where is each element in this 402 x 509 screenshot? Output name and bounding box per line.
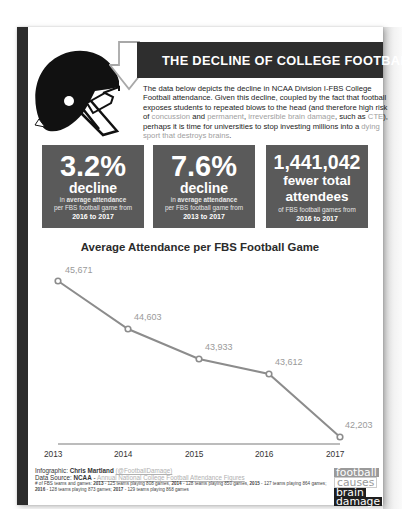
team-game-notes: # of FBS teams and games: 2013 - 125 tea… — [35, 481, 335, 492]
point-2014 — [125, 326, 131, 332]
footer-credits: Infographic: Chris Martland (@FootballDa… — [35, 467, 335, 493]
infographic-page: THE DECLINE OF COLLEGE FOOTBALL The data… — [17, 27, 383, 505]
data-label-2014: 44,603 — [134, 312, 162, 322]
attendance-line-chart: 45,671 44,603 43,933 43,612 42,203 2013 … — [17, 27, 383, 505]
point-2015 — [196, 356, 202, 362]
infographic-credit: Infographic: Chris Martland (@FootballDa… — [35, 467, 335, 474]
data-label-2015: 43,933 — [205, 342, 233, 352]
source-link[interactable]: Annual National College Football Attenda… — [97, 474, 245, 481]
data-label-2016: 43,612 — [275, 357, 303, 367]
x-tick-2017: 2017 — [326, 449, 345, 459]
author-handle-link[interactable]: (@FootballDamage) — [116, 467, 173, 474]
point-2017 — [337, 434, 343, 440]
x-tick-2014: 2014 — [114, 449, 133, 459]
data-source: Data Source: NCAA - Annual National Coll… — [35, 474, 335, 481]
data-label-2017: 42,203 — [345, 420, 373, 430]
point-2013 — [55, 278, 61, 284]
x-tick-2015: 2015 — [185, 449, 204, 459]
x-tick-2013: 2013 — [44, 449, 63, 459]
football-causes-brain-damage-logo: football causes brain damage — [334, 468, 384, 505]
x-tick-2016: 2016 — [255, 449, 274, 459]
data-label-2013: 45,671 — [65, 265, 93, 275]
point-2016 — [266, 371, 272, 377]
